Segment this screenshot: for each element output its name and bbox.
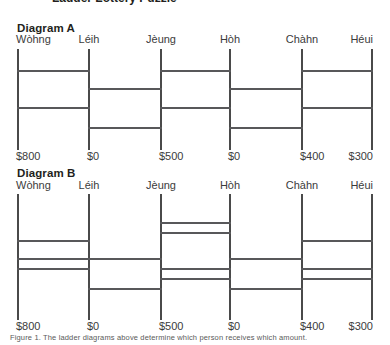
figure-caption: Figure 1. The ladder diagrams above dete… (0, 333, 390, 345)
figure-caption-text: Figure 1. The ladder diagrams above dete… (10, 333, 307, 342)
diagram-b-rung-4 (17, 258, 90, 260)
diagram-b-title: Diagram B (17, 167, 75, 179)
diagram-b-rung-13 (229, 288, 303, 290)
diagram-b-rung-1 (160, 232, 231, 234)
diagram-b-rung-3 (301, 240, 373, 242)
diagram-b-rung-12 (88, 288, 162, 290)
diagram-b-rail-5 (371, 194, 373, 320)
diagram-b-rail-0 (17, 194, 19, 320)
diagram-b-rung-7 (17, 268, 90, 270)
diagram-b-amount-0: $800 (16, 320, 40, 332)
diagram-b-name-5: Héui (350, 179, 373, 191)
diagram-b-rung-5 (88, 258, 162, 260)
diagram-b-rung-9 (301, 268, 373, 270)
diagram-b-rung-10 (160, 278, 231, 280)
diagram-b-name-1: Léih (79, 179, 100, 191)
diagram-b-name-4: Chàhn (286, 179, 318, 191)
diagram-b-rail-1 (88, 194, 90, 320)
ladder-diagram-page: Ladder Lottery Puzzle Diagram AWòhng$800… (0, 0, 390, 345)
diagram-b-rung-11 (301, 278, 373, 280)
diagram-b-amount-1: $0 (87, 320, 99, 332)
diagram-b-rung-8 (160, 268, 231, 270)
diagram-b-rail-3 (229, 194, 231, 320)
diagram-b-rail-4 (301, 194, 303, 320)
diagram-b-rail-2 (160, 194, 162, 320)
diagram-b: Diagram BWòhng$800Léih$0Jèung$500Hòh$0Ch… (0, 0, 390, 345)
diagram-b-amount-2: $500 (159, 320, 183, 332)
diagram-b-name-2: Jèung (146, 179, 176, 191)
diagram-b-rung-2 (17, 240, 90, 242)
diagram-b-name-0: Wòhng (16, 179, 51, 191)
diagram-b-rung-6 (229, 258, 303, 260)
diagram-b-amount-3: $0 (228, 320, 240, 332)
diagram-b-amount-5: $300 (349, 320, 373, 332)
diagram-b-amount-4: $400 (300, 320, 324, 332)
diagram-b-name-3: Hòh (220, 179, 240, 191)
diagram-b-rung-0 (160, 222, 231, 224)
